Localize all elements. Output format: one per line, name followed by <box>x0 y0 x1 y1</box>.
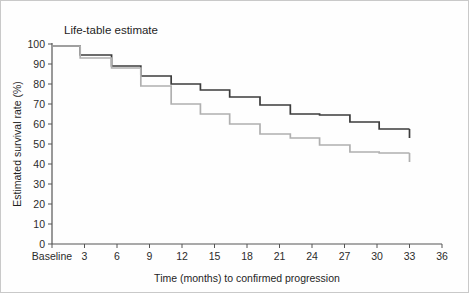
y-axis-tick-label: 60 <box>33 118 45 130</box>
x-axis-title: Time (months) to confirmed progression <box>154 272 340 284</box>
x-axis-tick-label: 30 <box>371 250 383 262</box>
x-axis-tick-label: 3 <box>82 250 88 262</box>
chart-title: Life-table estimate <box>64 24 158 36</box>
x-axis-tick-label: 6 <box>114 250 120 262</box>
chart-canvas: 0102030405060708090100Baseline3691215182… <box>1 1 469 293</box>
y-axis-tick-label: 50 <box>33 138 45 150</box>
y-axis-tick-label: 100 <box>27 38 45 50</box>
y-axis-title: Estimated survival rate (%) <box>11 81 23 206</box>
x-axis-tick-label: 21 <box>274 250 286 262</box>
y-axis-tick-label: 20 <box>33 198 45 210</box>
y-axis-tick-label: 10 <box>33 218 45 230</box>
x-axis-tick-label: 24 <box>306 250 318 262</box>
y-axis-tick-label: 90 <box>33 58 45 70</box>
x-axis-tick-label: 12 <box>176 250 188 262</box>
x-axis-tick-label: Baseline <box>32 250 72 262</box>
x-axis-tick-label: 9 <box>147 250 153 262</box>
x-axis-tick-label: 27 <box>339 250 351 262</box>
y-axis-tick-label: 80 <box>33 78 45 90</box>
figure-frame: 0102030405060708090100Baseline3691215182… <box>0 0 469 293</box>
x-axis-tick-label: 36 <box>436 250 448 262</box>
series-line-lower-curve <box>52 46 410 153</box>
x-axis-tick-label: 15 <box>209 250 221 262</box>
y-axis-tick-label: 40 <box>33 158 45 170</box>
y-axis-tick-label: 0 <box>39 238 45 250</box>
x-axis-tick-label: 33 <box>404 250 416 262</box>
y-axis-tick-label: 30 <box>33 178 45 190</box>
y-axis-tick-label: 70 <box>33 98 45 110</box>
x-axis-tick-label: 18 <box>241 250 253 262</box>
